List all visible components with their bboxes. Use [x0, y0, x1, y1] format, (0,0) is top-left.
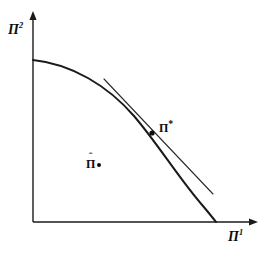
- tangent-line: [104, 79, 213, 194]
- y-axis-label-superscript: 2: [19, 21, 23, 30]
- figure-container: Π2 Π1 Π* ˆΠ: [0, 0, 274, 257]
- x-axis-label-superscript: 1: [239, 228, 243, 237]
- pi-hat-point-marker: [97, 163, 102, 168]
- pi-hat-label-glyph: ˆΠ: [86, 158, 95, 170]
- x-axis-arrow-icon: [249, 218, 258, 225]
- pi-star-label: Π*: [159, 119, 173, 134]
- x-axis-label-base: Π: [228, 229, 239, 244]
- y-axis-arrow-icon: [29, 11, 36, 20]
- ppf-diagram-svg: [0, 0, 274, 257]
- y-axis-label: Π2: [8, 22, 23, 37]
- x-axis-label: Π1: [228, 229, 243, 244]
- pi-hat-label: ˆΠ: [86, 158, 101, 170]
- frontier-curve: [33, 60, 216, 222]
- circumflex-accent-icon: ˆ: [89, 152, 92, 162]
- y-axis-label-base: Π: [8, 22, 19, 37]
- pi-star-point-marker: [149, 130, 154, 135]
- pi-star-label-asterisk: *: [168, 118, 173, 129]
- pi-star-label-base: Π: [159, 121, 168, 135]
